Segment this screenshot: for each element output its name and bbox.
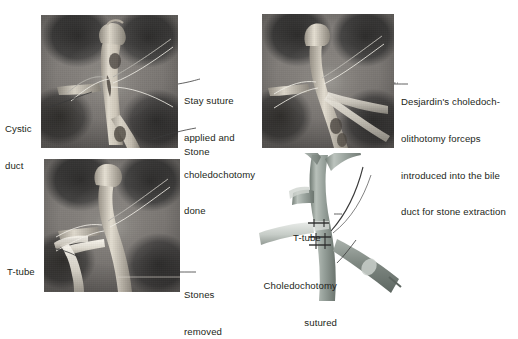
panel-a-stay-suture — [41, 15, 178, 148]
stay-suture-line4: done — [184, 205, 255, 217]
cystic-duct-line1: Cystic — [5, 123, 32, 135]
panel-grain-b — [262, 14, 394, 148]
choledochotomy-sutured-label: Choledochotomy sutured — [232, 256, 337, 339]
t-tube-text-d: T-tube — [293, 232, 321, 244]
choledochotomy-sutured-line1: Choledochotomy — [232, 280, 337, 292]
panel-grain-a — [41, 15, 178, 148]
forceps-line3: introduced into the bile — [401, 170, 506, 182]
panel-b-forceps — [262, 14, 394, 148]
forceps-line2: olithotomy forceps — [401, 133, 506, 145]
t-tube-text-c: T-tube — [7, 266, 35, 278]
forceps-line1: Desjardin's choledoch- — [401, 96, 506, 108]
stone-text: Stone — [184, 146, 210, 158]
t-tube-label-panel-c: T-tube — [7, 242, 35, 303]
forceps-line4: duct for stone extraction — [401, 206, 506, 218]
panel-grain-c — [44, 159, 180, 292]
stones-removed-line1: Stones — [184, 289, 222, 301]
stay-suture-line1: Stay suture — [184, 95, 255, 107]
cystic-duct-line2: duct — [5, 160, 32, 172]
stones-removed-line2: removed — [184, 326, 222, 338]
panel-c-t-tube — [44, 159, 180, 292]
choledochotomy-sutured-line2: sutured — [232, 317, 337, 329]
forceps-label: Desjardin's choledoch- olithotomy forcep… — [401, 72, 506, 243]
stones-removed-label: Stones removed — [184, 265, 222, 339]
stone-label: Stone — [184, 122, 210, 183]
cystic-duct-label: Cystic duct — [5, 99, 32, 197]
